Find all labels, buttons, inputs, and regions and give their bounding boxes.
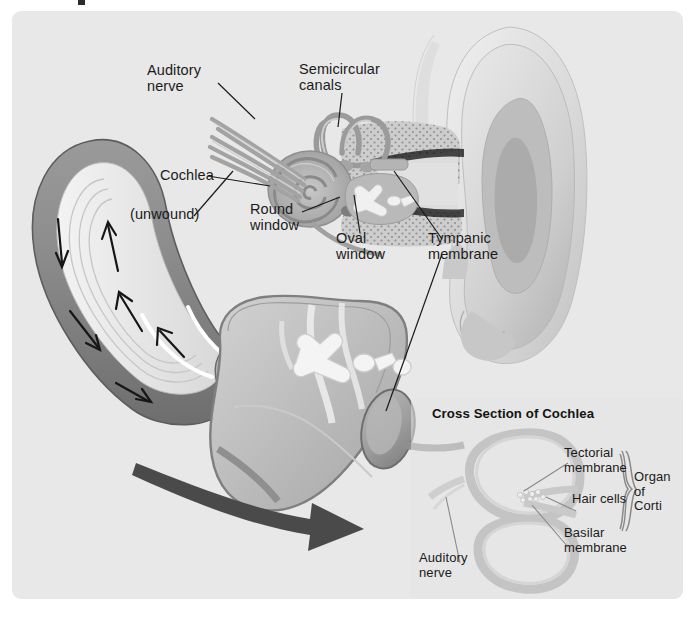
ear-anatomy-illustration [12, 11, 683, 599]
enlarged-middle-ear [210, 296, 464, 510]
crop-tick-mark [78, 0, 85, 5]
label-unwound: (unwound) [130, 207, 199, 223]
label-oval-window: Oval window [336, 231, 385, 262]
diagram-frame [12, 11, 683, 599]
figure-canvas: Auditory nerve Semicircular canals Cochl… [0, 0, 695, 620]
label-hair-cells: Hair cells [572, 492, 626, 507]
middle-ear-small [345, 174, 418, 225]
inset-title: Cross Section of Cochlea [432, 406, 594, 421]
label-auditory-nerve-inset: Auditory nerve [419, 551, 468, 580]
label-auditory-nerve: Auditory nerve [147, 63, 201, 94]
label-semicircular-canals: Semicircular canals [299, 62, 380, 93]
label-cochlea: Cochlea [160, 168, 214, 184]
label-round-window: Round window [250, 202, 299, 233]
label-tympanic-membrane: Tympanic membrane [428, 231, 498, 262]
label-organ-of-corti: Organ of Corti [634, 470, 671, 514]
label-basilar-membrane: Basilar membrane [564, 526, 627, 555]
label-tectorial-membrane: Tectorial membrane [564, 446, 627, 475]
